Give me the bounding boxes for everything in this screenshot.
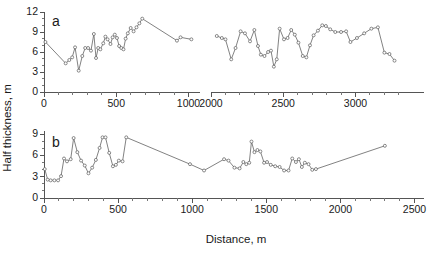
panel-b-data-point	[76, 151, 79, 154]
panel-b-y-tick-label: 0	[32, 191, 38, 203]
panel-a-series-line	[217, 25, 395, 66]
panel-a-data-point	[376, 26, 379, 29]
panel-a-data-point	[44, 41, 47, 44]
panel-b-data-point	[283, 169, 286, 172]
panel-a-y-tick-label: 12	[26, 5, 38, 17]
panel-a-data-point	[215, 35, 218, 38]
panel-b-data-point	[91, 166, 94, 169]
panel-b-data-point	[53, 179, 56, 182]
panel-b-data-point	[94, 158, 97, 161]
panel-a-data-point	[249, 40, 252, 43]
panel-b-data-point	[383, 144, 386, 147]
panel-b-data-point	[83, 164, 86, 167]
panel-a-data-point	[99, 48, 102, 51]
panel-a-data-point	[316, 29, 319, 32]
panel-b-data-point	[250, 140, 253, 143]
panel-b-data-point	[233, 166, 236, 169]
panel-a-data-point	[87, 47, 90, 50]
panel-a-data-series	[44, 17, 396, 72]
panel-a-data-point	[393, 59, 396, 62]
panel-b-data-point	[274, 165, 277, 168]
panel-a-axes	[40, 12, 424, 97]
y-axis-title: Half thickness, m	[1, 84, 13, 172]
panel-a-data-point	[132, 30, 135, 33]
panel-b-data-point	[117, 159, 120, 162]
panel-a-data-point	[135, 26, 138, 29]
panel-b-y-tick-label: 9	[32, 127, 38, 139]
panel-a: a 03691205001000200025003000	[26, 5, 424, 109]
figure-container: Half thickness, m Distance, m a 03691205…	[0, 0, 428, 255]
panel-b-x-tick-label: 2000	[329, 203, 353, 215]
panel-a-data-point	[363, 32, 366, 35]
panel-b-y-tick-label: 3	[32, 170, 38, 182]
panel-a-data-point	[89, 49, 92, 52]
panel-a-data-point	[308, 44, 311, 47]
panel-b-x-tick-label: 0	[41, 203, 47, 215]
panel-a-y-tick-label: 0	[32, 85, 38, 97]
panel-a-data-point	[269, 49, 272, 52]
panel-b-data-point	[80, 159, 83, 162]
panel-b-data-point	[72, 137, 75, 140]
panel-b-data-point	[65, 160, 68, 163]
panel-a-data-point	[109, 43, 112, 46]
panel-b-x-tick-label: 500	[109, 203, 127, 215]
panel-a-data-point	[124, 37, 127, 40]
panel-b-data-point	[248, 161, 251, 164]
panel-a-data-point	[102, 42, 105, 45]
panel-a-data-point	[267, 51, 270, 54]
panel-a-data-point	[126, 32, 129, 35]
panel-b-data-point	[98, 146, 101, 149]
panel-a-data-point	[106, 38, 109, 41]
panel-a-x-tick-label: 2500	[272, 97, 296, 109]
panel-a-x-tick-label: 3000	[344, 97, 368, 109]
panel-b-data-point	[46, 178, 49, 181]
panel-a-data-point	[64, 62, 67, 65]
panel-a-x-tick-label: 2000	[199, 97, 223, 109]
panel-b-data-point	[297, 158, 300, 161]
panel-b-data-point	[300, 165, 303, 168]
panel-b-y-tick-label: 6	[32, 148, 38, 160]
panel-b-data-point	[223, 158, 226, 161]
panel-a-y-tick-label: 6	[32, 45, 38, 57]
panel-b-label: b	[52, 134, 60, 150]
panel-a-x-tick-label: 500	[107, 97, 125, 109]
panel-a-data-point	[111, 36, 114, 39]
panel-b-data-point	[242, 161, 245, 164]
panel-a-data-point	[370, 27, 373, 30]
panel-b-data-point	[227, 159, 230, 162]
panel-b-tick-labels: 036905001000150020002500	[32, 127, 426, 215]
panel-a-data-point	[68, 59, 71, 62]
panel-b-data-point	[253, 151, 256, 154]
panel-a-data-point	[272, 65, 275, 68]
panel-a-y-tick-label: 9	[32, 25, 38, 37]
panel-a-data-point	[175, 39, 178, 42]
panel-a-data-point	[224, 38, 227, 41]
panel-b-data-point	[269, 163, 272, 166]
panel-b-data-point	[114, 163, 117, 166]
panel-a-data-point	[243, 32, 246, 35]
panel-b-data-point	[266, 161, 269, 164]
panel-b-data-point	[63, 157, 66, 160]
panel-a-data-point	[81, 55, 84, 58]
panel-a-data-point	[253, 29, 256, 32]
panel-a-data-point	[256, 45, 259, 48]
panel-a-data-point	[230, 58, 233, 61]
panel-a-data-point	[190, 38, 193, 41]
panel-a-data-point	[324, 25, 327, 28]
panel-a-data-point	[275, 58, 278, 61]
panel-a-data-point	[297, 41, 300, 44]
panel-a-x-tick-label: 0	[41, 97, 47, 109]
panel-b-x-tick-label: 1000	[181, 203, 205, 215]
panel-b-x-tick-label: 2500	[403, 203, 427, 215]
panel-b-data-series	[43, 136, 386, 182]
panel-b-data-point	[263, 161, 266, 164]
panel-a-data-point	[92, 33, 95, 36]
panel-a-data-point	[345, 30, 348, 33]
panel-b-data-point	[311, 168, 314, 171]
panel-a-data-point	[122, 48, 125, 51]
panel-b-data-point	[101, 136, 104, 139]
panel-a-data-point	[113, 33, 116, 36]
panel-a-data-point	[305, 56, 308, 59]
panel-a-data-point	[239, 30, 242, 33]
panel-a-data-point	[349, 41, 352, 44]
